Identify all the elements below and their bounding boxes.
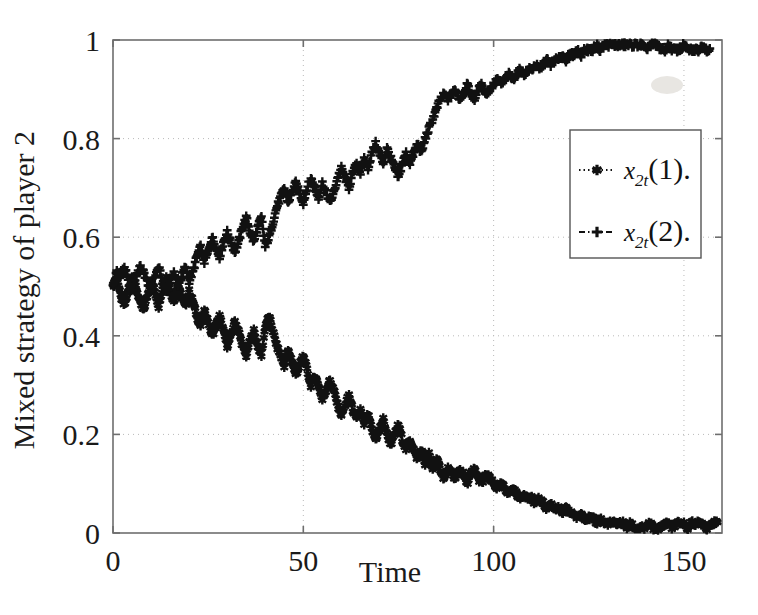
x-tick-label: 50 [288,544,318,577]
legend[interactable]: x2t(1).x2t(2). [570,130,701,258]
y-tick-label: 0.8 [63,123,101,156]
y-tick-label: 0.6 [63,221,101,254]
chart-figure: 050100150 00.20.40.60.81 Time Mixed stra… [0,0,758,615]
legend-label-base: x [623,219,635,246]
x-axis-label: Time [359,555,421,588]
x-tick-label: 150 [661,544,706,577]
legend-star-icon [593,165,602,175]
y-tick-label: 1 [85,24,100,57]
x-tick-label: 100 [471,544,516,577]
y-tick-label: 0.4 [63,320,101,353]
scan-smudge [651,76,683,94]
chart-page: 050100150 00.20.40.60.81 Time Mixed stra… [0,0,758,615]
x-tick-label: 0 [106,544,121,577]
legend-label-argument: (2). [648,214,690,248]
legend-label-base: x [623,157,635,184]
y-tick-label: 0 [85,517,100,550]
y-axis-label: Mixed strategy of player 2 [7,131,40,449]
y-tick-label: 0.2 [63,418,101,451]
legend-label-argument: (1). [648,152,690,186]
